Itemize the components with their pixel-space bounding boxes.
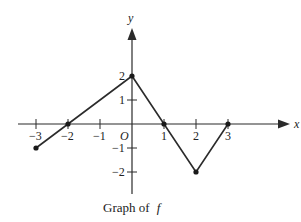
y-tick-label: −1 [112, 141, 125, 155]
x-tick-label: 1 [161, 129, 167, 143]
y-tick-label: 2 [119, 69, 125, 83]
y-tick-label: 1 [119, 93, 125, 107]
caption-prefix: Graph of [103, 200, 150, 215]
x-tick-label: −2 [61, 129, 74, 143]
caption-function-name: f [157, 200, 163, 215]
x-axis-arrow-icon [278, 120, 290, 129]
graph-of-f: x y −3 −2 −1 O 1 2 3 2 1 −1 −2 Graph of [0, 0, 301, 222]
point-m3-m1 [33, 145, 38, 150]
y-tick-label: −2 [112, 165, 125, 179]
point-0-2 [129, 73, 134, 78]
x-axis-label: x [293, 117, 300, 131]
point-m2-0 [65, 121, 70, 126]
x-tick-label: −1 [93, 129, 106, 143]
y-axis-arrow-icon [128, 28, 137, 40]
x-tick-label: 2 [193, 129, 199, 143]
caption: Graph of f [103, 200, 163, 215]
x-tick-label: −3 [29, 129, 42, 143]
y-axis-label: y [127, 11, 134, 25]
point-2-m2 [193, 169, 198, 174]
point-3-0 [225, 121, 230, 126]
x-tick-label: 3 [225, 129, 231, 143]
point-1-0 [161, 121, 166, 126]
